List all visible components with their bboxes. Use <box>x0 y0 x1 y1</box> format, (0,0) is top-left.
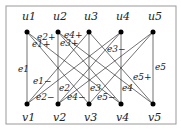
edge-label: e5+ <box>133 72 152 82</box>
node-u2: u2 <box>53 10 67 23</box>
node-v2: v2 <box>53 111 66 124</box>
node-v1: v1 <box>22 111 35 124</box>
node-v5: v5 <box>148 111 161 124</box>
edge-label: e5 <box>155 62 166 72</box>
edge-label: e4 <box>122 83 133 93</box>
edge-label: e2− <box>36 92 55 102</box>
edge-label: e4− <box>67 92 86 102</box>
edge-label: e3− <box>107 44 126 54</box>
node-u4: u4 <box>116 10 130 23</box>
node-u5: u5 <box>148 10 162 23</box>
edge-label: e5− <box>97 92 116 102</box>
edge-label: e4+ <box>64 30 83 40</box>
edge-label: e1 <box>18 64 29 74</box>
node-u3: u3 <box>84 10 98 23</box>
node-v4: v4 <box>116 111 129 124</box>
edge-label: e2+ <box>37 32 56 42</box>
node-u1: u1 <box>22 10 36 23</box>
node-v3: v3 <box>84 111 97 124</box>
bipartite-graph-diagram: u1 u2 u3 u4 u5 v1 v2 v3 v4 v5 e1 e2 e3 e… <box>0 0 181 131</box>
edge-label: e1− <box>33 76 52 86</box>
